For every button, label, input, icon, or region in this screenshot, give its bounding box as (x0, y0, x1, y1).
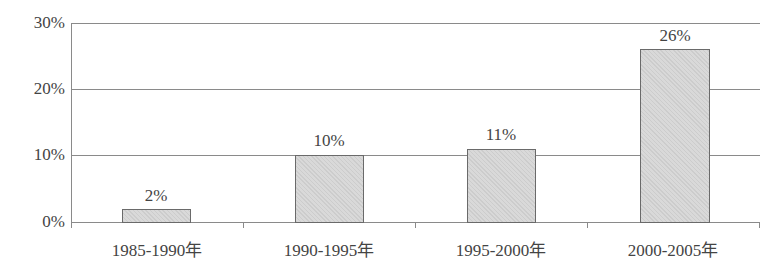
y-tick-label: 20% (10, 80, 65, 98)
x-category-label: 1995-2000年 (415, 236, 587, 261)
x-tick (71, 222, 72, 228)
y-tick-label: 10% (10, 146, 65, 164)
bar-1985-1990 (122, 209, 191, 223)
bar-2000-2005 (640, 49, 710, 223)
bar-chart: 30% 20% 10% 0% 2% 10% 11% 26% 1985-1990年… (0, 0, 776, 278)
bar-1990-1995 (295, 155, 364, 223)
x-tick (415, 222, 416, 228)
data-label: 2% (116, 187, 196, 205)
data-label: 11% (461, 126, 541, 144)
gridline-30 (71, 23, 760, 24)
x-category-label: 1985-1990年 (71, 236, 243, 261)
data-label: 26% (635, 27, 715, 45)
bar-1995-2000 (467, 149, 536, 223)
y-tick-label: 30% (10, 14, 65, 32)
x-tick (759, 222, 760, 228)
x-category-label: 2000-2005年 (587, 236, 759, 261)
y-axis (71, 23, 72, 223)
x-category-label: 1990-1995年 (243, 236, 415, 261)
y-tick-label: 0% (10, 213, 65, 231)
x-tick (587, 222, 588, 228)
x-tick (243, 222, 244, 228)
data-label: 10% (289, 132, 369, 150)
